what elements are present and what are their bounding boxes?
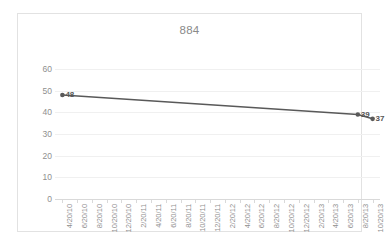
y-axis-tick-label: 40 — [30, 107, 52, 117]
chart-container: 884 6050403020100 4/20/106/20/108/20/101… — [17, 13, 362, 232]
x-axis-tick-mark — [225, 199, 226, 203]
y-axis-tick-label: 20 — [30, 151, 52, 161]
x-axis-tick-label: 4/20/10 — [65, 204, 74, 228]
x-axis-tick-label: 8/20/11 — [184, 204, 193, 228]
x-axis-tick-label: 8/20/13 — [361, 204, 370, 228]
x-axis-tick-labels: 4/20/106/20/108/20/1010/20/1012/20/102/2… — [55, 204, 380, 245]
x-axis-tick-mark — [299, 199, 300, 203]
x-axis-tick-label: 8/20/10 — [95, 204, 104, 228]
x-axis-tick-mark — [151, 199, 152, 203]
x-axis-tick-label: 2/20/12 — [228, 204, 237, 228]
line-series — [55, 69, 380, 199]
data-point-marker — [60, 93, 65, 98]
x-axis-tick-label: 12/20/10 — [124, 204, 133, 232]
chart-title: 884 — [18, 24, 361, 36]
x-axis-tick-mark — [195, 199, 196, 203]
x-axis-tick-label: 12/20/11 — [213, 204, 222, 232]
x-axis-tick-label: 4/20/11 — [154, 204, 163, 228]
y-axis-tick-label: 30 — [30, 129, 52, 139]
y-axis-tick-label: 0 — [30, 194, 52, 204]
x-axis-tick-mark — [107, 199, 108, 203]
x-axis-tick-mark — [343, 199, 344, 203]
x-axis-tick-label: 6/20/12 — [257, 204, 266, 228]
x-axis-tick-mark — [62, 199, 63, 203]
x-axis-tick-label: 10/20/13 — [376, 204, 385, 232]
x-axis-tick-label: 12/20/12 — [302, 204, 311, 232]
x-axis-tick-mark — [136, 199, 137, 203]
x-axis-tick-mark — [240, 199, 241, 203]
x-axis-tick-mark — [121, 199, 122, 203]
data-point-label: 37 — [376, 113, 385, 122]
x-axis-tick-label: 10/20/10 — [110, 204, 119, 232]
x-axis-tick-mark — [284, 199, 285, 203]
x-axis-tick-mark — [358, 199, 359, 203]
x-axis-tick-label: 6/20/13 — [346, 204, 355, 228]
x-axis-tick-label: 2/20/11 — [139, 204, 148, 228]
x-axis-tick-label: 6/20/10 — [80, 204, 89, 228]
x-axis-tick-label: 6/20/11 — [169, 204, 178, 228]
x-axis-tick-label: 2/20/13 — [317, 204, 326, 228]
x-axis-tick-mark — [181, 199, 182, 203]
x-axis-tick-label: 10/20/11 — [198, 204, 207, 232]
x-axis-tick-mark — [314, 199, 315, 203]
x-axis-tick-mark — [92, 199, 93, 203]
data-point-marker — [356, 112, 361, 117]
x-axis-tick-label: 10/20/12 — [287, 204, 296, 232]
x-axis-tick-label: 8/20/12 — [272, 204, 281, 228]
x-axis-tick-mark — [210, 199, 211, 203]
x-axis-tick-mark — [269, 199, 270, 203]
x-axis-tick-mark — [373, 199, 374, 203]
y-axis-tick-labels: 6050403020100 — [28, 69, 52, 199]
data-point-label: 48 — [65, 90, 74, 99]
x-axis-tick-mark — [328, 199, 329, 203]
x-axis-tick-label: 4/20/13 — [331, 204, 340, 228]
x-axis-tick-label: 4/20/12 — [243, 204, 252, 228]
y-axis-tick-label: 10 — [30, 172, 52, 182]
x-axis-tick-mark — [166, 199, 167, 203]
x-axis-tick-mark — [77, 199, 78, 203]
x-axis-tick-mark — [254, 199, 255, 203]
x-axis-tick-marks — [55, 199, 380, 203]
data-point-marker — [370, 117, 375, 122]
y-axis-tick-label: 50 — [30, 86, 52, 96]
series-line — [62, 95, 372, 119]
data-point-label: 39 — [361, 109, 370, 118]
y-axis-tick-label: 60 — [30, 64, 52, 74]
